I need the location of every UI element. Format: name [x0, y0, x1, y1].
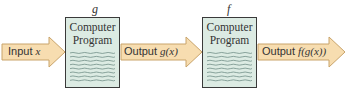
middle-output-label: Output g(x) [124, 45, 178, 57]
final-output-label: Output f(g(x)) [262, 45, 326, 57]
program-lines-icon [70, 51, 115, 82]
program-lines-icon [207, 51, 252, 82]
computer-program-g-box: Computer Program [65, 17, 120, 88]
function-g-label: g [92, 2, 98, 17]
box-f-title: Computer Program [203, 21, 256, 47]
function-f-label: f [227, 2, 230, 17]
computer-program-f-box: Computer Program [202, 17, 257, 88]
input-label: Input x [8, 45, 40, 57]
box-g-title: Computer Program [66, 21, 119, 47]
